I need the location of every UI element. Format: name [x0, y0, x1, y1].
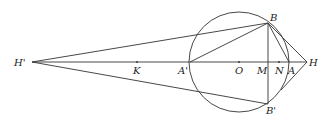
diagram-canvas: H'KA'OMNAHBB' [0, 0, 334, 124]
point-label-Hp: H' [13, 57, 25, 68]
point-label-M: M [256, 65, 268, 76]
point-label-H: H [308, 57, 318, 68]
point-label-N: N [274, 65, 285, 76]
segment-Hp-B [32, 23, 268, 62]
point-label-A: A [287, 65, 295, 76]
segment-Hp-Bp [32, 62, 268, 104]
point-label-Bp: B' [265, 105, 276, 116]
point-dot-K [136, 61, 138, 63]
point-label-O: O [235, 65, 243, 76]
point-dot-N [278, 61, 280, 63]
geometry-diagram: H'KA'OMNAHBB' [0, 0, 334, 124]
point-label-Ap: A' [177, 65, 188, 76]
segment-B-H [268, 23, 307, 62]
point-dot-O [238, 61, 240, 63]
point-label-B: B [269, 12, 277, 23]
point-label-K: K [132, 65, 141, 76]
segment-B-A [268, 23, 289, 62]
